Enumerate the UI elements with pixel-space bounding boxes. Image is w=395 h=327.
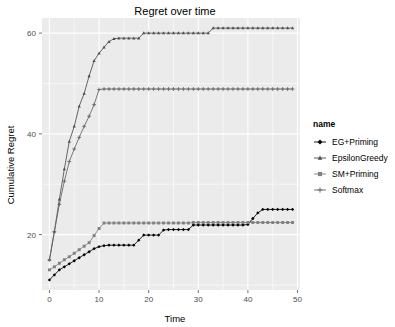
marker-filled-square	[246, 221, 249, 224]
marker-filled-square	[137, 222, 140, 225]
marker-filled-square	[103, 222, 106, 225]
marker-filled-square	[197, 221, 200, 224]
marker-filled-square	[202, 221, 205, 224]
x-tick-label: 30	[194, 295, 203, 304]
x-tick-label: 50	[293, 295, 302, 304]
chart-root: Regret over time Cumulative Regret Time …	[0, 0, 395, 327]
marker-filled-square	[58, 262, 61, 265]
x-axis-title: Time	[165, 313, 186, 324]
marker-filled-square	[83, 245, 86, 248]
marker-filled-square	[182, 222, 185, 225]
legend-item-label: Softmax	[332, 185, 364, 195]
marker-filled-square	[63, 258, 66, 261]
marker-filled-square	[232, 221, 235, 224]
marker-filled-square	[291, 221, 294, 224]
plot-panel	[42, 18, 300, 290]
marker-filled-square	[172, 222, 175, 225]
marker-filled-square	[251, 221, 254, 224]
marker-filled-square	[48, 268, 51, 271]
marker-filled-square	[271, 221, 274, 224]
marker-filled-square	[212, 221, 215, 224]
marker-filled-square	[162, 222, 165, 225]
marker-filled-square	[261, 221, 264, 224]
marker-filled-square	[241, 221, 244, 224]
marker-filled-square	[73, 252, 76, 255]
legend-title: name	[313, 119, 335, 129]
y-tick-label: 20	[27, 231, 36, 240]
marker-filled-square	[78, 248, 81, 251]
marker-filled-square	[281, 221, 284, 224]
marker-filled-square	[217, 221, 220, 224]
marker-filled-square	[177, 222, 180, 225]
marker-filled-square	[117, 222, 120, 225]
marker-filled-square	[108, 222, 111, 225]
legend-item-label: EpsilonGreedy	[332, 153, 389, 163]
marker-filled-square	[157, 222, 160, 225]
marker-filled-square	[286, 221, 289, 224]
panel-background	[42, 18, 300, 290]
legend-item-label: SM+Priming	[332, 169, 379, 179]
marker-filled-square	[207, 221, 210, 224]
marker-filled-square	[222, 221, 225, 224]
marker-filled-square	[98, 227, 101, 230]
y-axis-title: Cumulative Regret	[5, 125, 16, 204]
marker-filled-square	[187, 222, 190, 225]
y-tick-label: 40	[27, 130, 36, 139]
marker-filled-square	[256, 221, 259, 224]
x-tick-label: 20	[144, 295, 153, 304]
marker-filled-square	[227, 221, 230, 224]
regret-over-time-chart: Regret over time Cumulative Regret Time …	[0, 0, 395, 327]
marker-filled-square	[93, 234, 96, 237]
marker-filled-square	[237, 221, 240, 224]
marker-filled-square	[142, 222, 145, 225]
x-tick-label: 10	[95, 295, 104, 304]
marker-filled-square	[152, 222, 155, 225]
marker-filled-square	[127, 222, 130, 225]
marker-filled-square	[122, 222, 125, 225]
marker-filled-square	[68, 255, 71, 258]
marker-filled-square	[276, 221, 279, 224]
x-tick-label: 40	[243, 295, 252, 304]
marker-filled-square	[147, 222, 150, 225]
legend-item-label: EG+Priming	[332, 137, 378, 147]
x-tick-label: 0	[47, 295, 52, 304]
marker-filled-square	[88, 241, 91, 244]
marker-filled-square	[112, 222, 115, 225]
marker-filled-square	[167, 222, 170, 225]
marker-filled-square	[318, 172, 322, 176]
marker-filled-square	[53, 265, 56, 268]
chart-title: Regret over time	[134, 5, 215, 17]
marker-filled-square	[192, 221, 195, 224]
marker-filled-square	[132, 222, 135, 225]
marker-filled-square	[266, 221, 269, 224]
y-tick-label: 60	[27, 29, 36, 38]
